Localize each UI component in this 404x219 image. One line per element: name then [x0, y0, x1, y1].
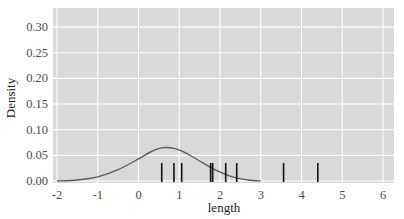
- x-tick-label: -2: [52, 188, 62, 202]
- x-tick-label: 1: [176, 188, 182, 202]
- y-tick-label: 0.10: [26, 123, 48, 137]
- x-tick-label: 5: [339, 188, 345, 202]
- x-tick-label: 3: [258, 188, 264, 202]
- y-tick-label: 0.25: [26, 46, 48, 60]
- x-tick-label: 4: [298, 188, 305, 202]
- y-tick-label: 0.20: [26, 71, 48, 85]
- y-tick-label: 0.00: [26, 174, 48, 188]
- x-axis-label: length: [208, 200, 241, 215]
- y-tick-label: 0.05: [26, 148, 48, 162]
- density-chart: -2-10123456 0.000.050.100.150.200.250.30…: [0, 0, 404, 219]
- x-tick-label: 6: [380, 188, 386, 202]
- y-axis-label: Density: [3, 77, 18, 118]
- x-tick-label: -1: [93, 188, 103, 202]
- x-tick-label: 0: [135, 188, 141, 202]
- y-tick-label: 0.30: [26, 20, 48, 34]
- y-axis-ticks: 0.000.050.100.150.200.250.30: [26, 20, 48, 188]
- y-tick-label: 0.15: [26, 97, 48, 111]
- plot-panel: [53, 8, 394, 183]
